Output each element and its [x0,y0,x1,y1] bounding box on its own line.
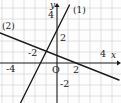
curve-label-1: (1) [73,6,86,15]
origin-label: O [52,65,60,75]
y-tick-2: 2 [60,33,66,43]
x-tick-minus-4: -4 [6,64,15,74]
math-figure-coordinate-plane: (1) (2) y x 4 2 -2 -4 -2 2 4 O [0,0,121,103]
x-axis-label: x [111,51,116,60]
curve-label-2: (2) [2,22,15,31]
y-tick-4: 4 [48,10,54,20]
x-tick-4: 4 [100,49,106,59]
x-tick-minus-2: -2 [28,48,37,58]
y-tick-minus-2: -2 [60,79,69,89]
x-tick-2: 2 [73,65,79,75]
